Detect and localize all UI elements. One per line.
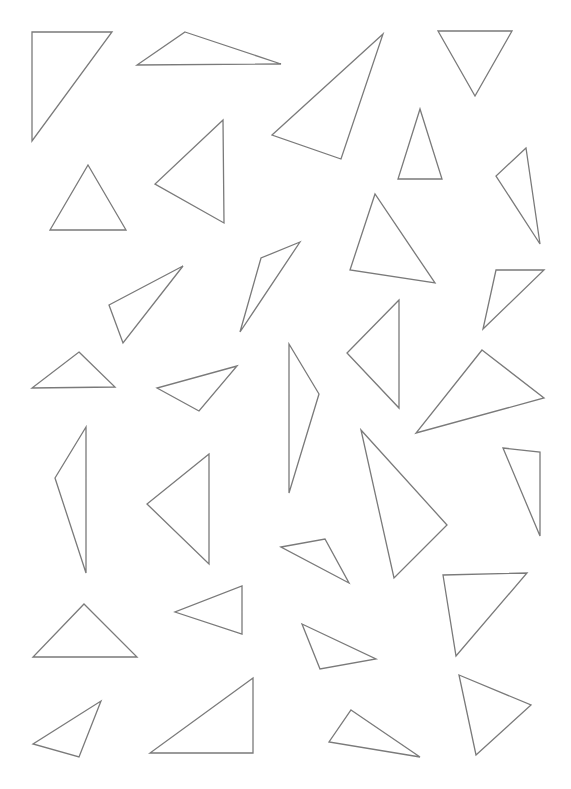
triangle-shape <box>302 624 376 669</box>
triangle-shape <box>443 573 527 656</box>
triangle-shape <box>289 344 319 493</box>
triangle-shape <box>147 454 209 564</box>
triangle-shape <box>155 120 224 223</box>
triangle-shape <box>438 31 512 96</box>
triangle-shape <box>150 678 253 753</box>
triangle-shape <box>281 539 349 583</box>
triangle-shape <box>33 701 101 757</box>
triangle-shape <box>503 448 540 536</box>
triangle-shape <box>33 604 137 657</box>
triangles-canvas <box>0 0 571 789</box>
triangle-shape <box>347 300 399 408</box>
triangle-shape <box>329 710 420 757</box>
triangle-shape <box>459 675 531 755</box>
triangle-shape <box>32 32 112 141</box>
triangle-shape <box>398 109 442 179</box>
triangle-shape <box>50 165 126 230</box>
triangle-shape <box>361 430 447 578</box>
triangle-shape <box>32 352 115 388</box>
triangle-shape <box>240 242 300 332</box>
triangle-shape <box>157 366 237 411</box>
triangle-shape <box>272 34 383 159</box>
triangle-shape <box>175 586 242 634</box>
triangle-shape <box>350 194 435 283</box>
triangle-shape <box>496 148 540 244</box>
triangle-shape <box>109 266 183 343</box>
triangle-shape <box>416 350 544 433</box>
triangle-shape <box>55 427 86 573</box>
triangle-shape <box>483 270 544 329</box>
triangle-shape <box>137 32 281 65</box>
